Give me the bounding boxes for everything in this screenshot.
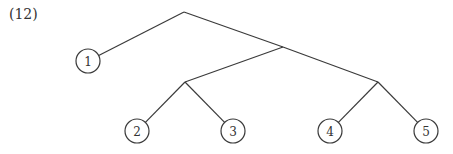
leaf-node-2: 2 <box>125 119 149 143</box>
tree-edge <box>378 82 418 122</box>
tree-edge <box>283 47 378 82</box>
leaf-node-1: 1 <box>76 49 100 73</box>
tree-diagram: (12) 12345 <box>0 0 453 154</box>
leaf-node-4: 4 <box>318 119 342 143</box>
tree-edge <box>185 82 225 122</box>
tree-edge <box>338 82 378 122</box>
leaf-node-3: 3 <box>221 119 245 143</box>
leaf-label: 2 <box>133 125 141 139</box>
leaf-label: 4 <box>326 125 334 139</box>
tree-edge <box>99 12 184 56</box>
leaf-label: 1 <box>84 55 92 69</box>
leaf-label: 5 <box>422 125 430 139</box>
tree-graphic: 12345 <box>0 0 453 154</box>
leaf-label: 3 <box>229 125 237 139</box>
tree-edge <box>185 47 283 82</box>
leaf-node-5: 5 <box>414 119 438 143</box>
tree-edge <box>184 12 283 47</box>
tree-edge <box>145 82 185 122</box>
